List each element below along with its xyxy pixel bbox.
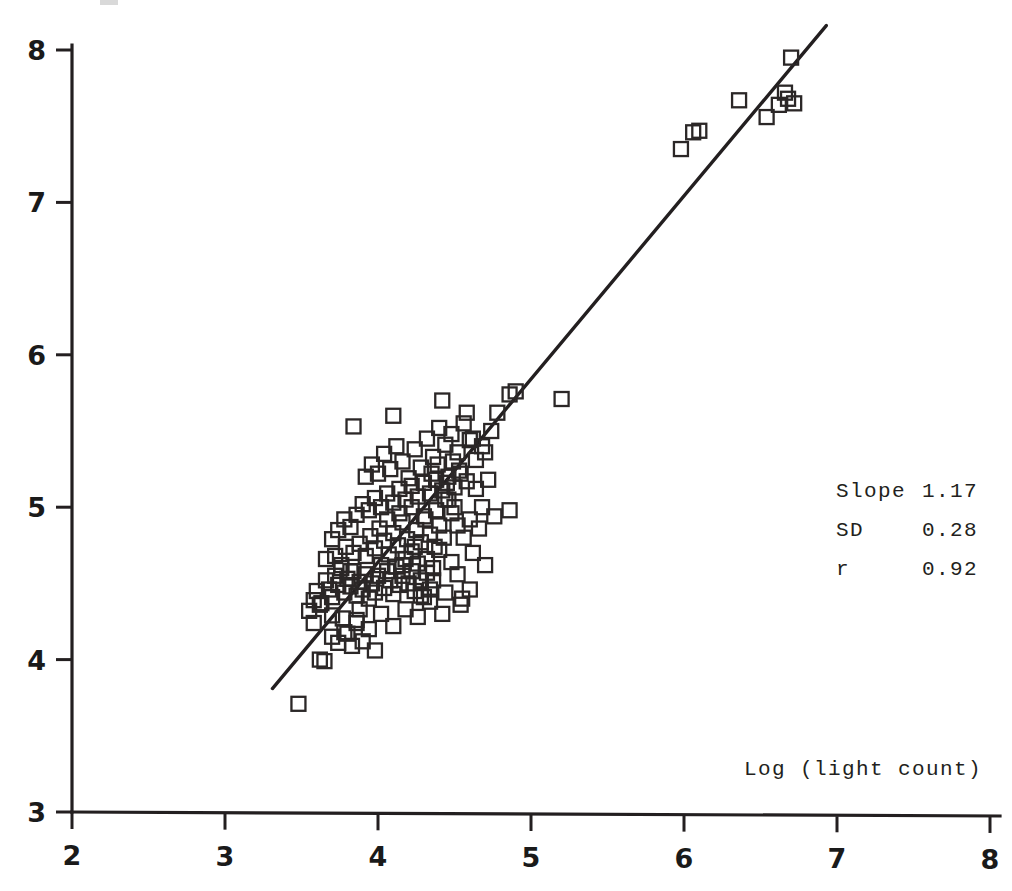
y-axis-ticks	[56, 50, 72, 812]
x-tick-label: 7	[828, 843, 847, 874]
slope-label: Slope	[836, 480, 906, 503]
data-point	[347, 419, 361, 433]
data-point	[472, 522, 486, 536]
y-tick-label: 6	[27, 340, 46, 371]
y-tick-label: 8	[27, 35, 46, 66]
scan-artifact	[100, 0, 118, 5]
y-tick-label: 7	[27, 187, 46, 218]
slope-value: 1.17	[922, 480, 978, 503]
x-tick-label: 6	[675, 843, 694, 874]
y-tick-label: 4	[27, 645, 46, 676]
x-axis-tick-labels: 2345678	[63, 840, 1000, 875]
x-tick-label: 8	[981, 844, 1000, 875]
statistics-annotation: Slope 1.17 SD 0.28 r 0.92	[836, 480, 978, 581]
y-tick-label: 5	[27, 492, 46, 523]
data-point	[386, 409, 400, 423]
sd-label: SD	[836, 519, 864, 542]
r-value: 0.92	[922, 558, 978, 581]
data-point	[732, 93, 746, 107]
x-axis-title: Log (light count)	[744, 758, 982, 781]
plot-canvas: 345678 2345678 Slope 1.17 SD 0.28 r 0.92…	[0, 0, 1012, 891]
data-point	[674, 142, 688, 156]
x-axis-line	[72, 812, 1000, 816]
axes-group	[72, 45, 1000, 816]
x-tick-label: 5	[522, 842, 541, 873]
data-point	[291, 697, 305, 711]
scatter-plot-figure: 345678 2345678 Slope 1.17 SD 0.28 r 0.92…	[0, 0, 1012, 891]
data-point	[503, 503, 517, 517]
data-point	[435, 394, 449, 408]
x-tick-label: 2	[63, 840, 82, 871]
y-tick-label: 3	[27, 797, 46, 828]
x-tick-label: 4	[369, 841, 388, 872]
y-axis-tick-labels: 345678	[27, 35, 46, 828]
sd-value: 0.28	[922, 519, 978, 542]
r-label: r	[836, 558, 850, 581]
data-point	[555, 392, 569, 406]
x-tick-label: 3	[216, 841, 235, 872]
